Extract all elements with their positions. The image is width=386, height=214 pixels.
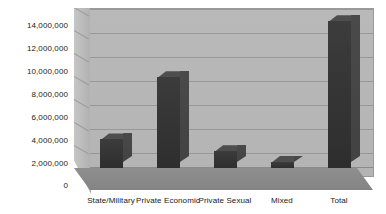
bar-front-face: [100, 139, 123, 168]
y-axis-labels: 14,000,000 12,000,000 10,000,000 8,000,0…: [0, 0, 72, 214]
y-axis-tick-label: 12,000,000: [27, 44, 68, 53]
y-axis-tick-label: 4,000,000: [32, 136, 69, 145]
bar-mixed: [271, 162, 294, 168]
bar-private-sexual: [214, 151, 237, 168]
bar-state-military: [100, 139, 123, 168]
bar-front-face: [157, 77, 180, 168]
bar-side-face: [180, 71, 189, 162]
y-axis-tick-label: 6,000,000: [32, 113, 69, 122]
bar-private-economic: [157, 77, 180, 168]
bar-front-face: [214, 151, 237, 168]
x-axis-tick-label-total: Total: [304, 196, 374, 206]
y-axis-tick-label: 0: [63, 181, 68, 190]
bar-side-face: [123, 133, 132, 162]
bar-front-face: [271, 162, 294, 168]
bar-total: [328, 21, 351, 168]
y-axis-tick-label: 8,000,000: [32, 90, 69, 99]
bar-side-face: [351, 15, 360, 162]
plot-area: [74, 8, 373, 190]
y-axis-tick-label: 2,000,000: [32, 159, 69, 168]
bar-side-face: [294, 156, 303, 162]
bar-chart: 14,000,000 12,000,000 10,000,000 8,000,0…: [0, 0, 386, 214]
y-axis-tick-label: 14,000,000: [27, 21, 68, 30]
bar-front-face: [328, 21, 351, 168]
y-axis-tick-label: 10,000,000: [27, 67, 68, 76]
bar-series: [74, 8, 373, 190]
bar-side-face: [237, 145, 246, 162]
x-axis-labels: State/Military Private Economic Private …: [0, 196, 386, 210]
